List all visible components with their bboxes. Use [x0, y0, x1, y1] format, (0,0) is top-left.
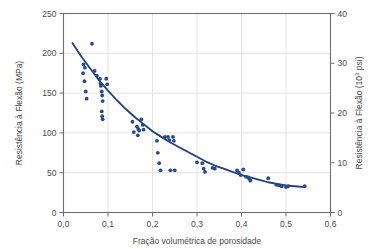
data-point-marker	[98, 77, 102, 81]
y-tick-label-left: 150	[42, 88, 56, 98]
y-axis-right-ticks: 010203040	[331, 9, 348, 218]
data-point-marker	[95, 74, 99, 78]
data-point-marker	[83, 79, 87, 83]
data-point-marker	[280, 184, 284, 188]
y-axis-title-left: Resistência à Flexão (MPa)	[14, 61, 24, 166]
data-point-marker	[101, 99, 105, 103]
data-point-marker	[173, 168, 177, 172]
data-point-marker	[241, 168, 245, 172]
data-point-marker	[83, 66, 87, 70]
chart-container: 0,00,10,20,30,40,50,6 050100150200250 01…	[0, 0, 378, 249]
data-point-marker	[156, 151, 160, 155]
data-point-marker	[104, 77, 108, 81]
data-point-marker	[157, 161, 161, 165]
y-tick-label-right: 10	[338, 158, 348, 168]
data-point-marker	[139, 117, 143, 121]
data-point-marker	[168, 168, 172, 172]
data-point-marker	[213, 167, 217, 171]
grid-lines	[64, 14, 331, 213]
data-points	[81, 42, 306, 189]
data-point-marker	[159, 168, 163, 172]
x-tick-label: 0,2	[147, 219, 159, 229]
axis-titles: Fração volumétrica de porosidadeResistên…	[14, 56, 364, 245]
y-tick-label-right: 0	[338, 208, 343, 218]
data-point-marker	[100, 114, 104, 118]
data-point-marker	[81, 71, 85, 75]
y-tick-label-right: 40	[338, 9, 348, 19]
data-point-marker	[90, 42, 94, 46]
y-tick-label-left: 0	[52, 208, 57, 218]
data-point-marker	[99, 84, 103, 88]
x-axis-ticks: 0,00,10,20,30,40,50,6	[58, 213, 337, 229]
data-point-marker	[136, 133, 140, 137]
data-point-marker	[137, 129, 141, 133]
data-point-marker	[100, 110, 104, 114]
data-point-marker	[200, 161, 204, 165]
x-tick-label: 0,1	[102, 219, 114, 229]
y-tick-label-left: 100	[42, 128, 56, 138]
data-point-marker	[303, 184, 307, 188]
trend-line	[72, 43, 304, 187]
data-point-marker	[101, 117, 105, 121]
x-tick-label: 0,3	[191, 219, 203, 229]
data-point-marker	[239, 173, 243, 177]
data-point-marker	[286, 184, 290, 188]
data-point-marker	[93, 69, 97, 73]
y-axis-title-right: Resistência à Flexão (103 psi)	[354, 56, 364, 169]
y-axis-left-ticks: 050100150200250	[42, 9, 63, 218]
fit-curve	[72, 43, 304, 187]
data-point-marker	[142, 128, 146, 132]
data-point-marker	[141, 123, 145, 127]
data-point-marker	[249, 179, 253, 183]
data-point-marker	[100, 94, 104, 98]
y-tick-label-right: 20	[338, 108, 348, 118]
data-point-marker	[172, 139, 176, 143]
y-tick-label-left: 50	[47, 168, 57, 178]
x-tick-label: 0,6	[325, 219, 337, 229]
data-point-marker	[132, 130, 136, 134]
x-axis-title: Fração volumétrica de porosidade	[133, 236, 262, 246]
data-point-marker	[131, 120, 135, 124]
data-point-marker	[85, 97, 89, 101]
y-tick-label-right: 30	[338, 58, 348, 68]
x-tick-label: 0,5	[280, 219, 292, 229]
x-tick-label: 0,0	[58, 219, 70, 229]
data-point-marker	[266, 176, 270, 180]
data-point-marker	[105, 82, 109, 86]
data-point-marker	[155, 139, 159, 143]
flexural-strength-scatter-chart: 0,00,10,20,30,40,50,6 050100150200250 01…	[0, 0, 378, 249]
y-tick-label-left: 250	[42, 9, 56, 19]
data-point-marker	[100, 90, 104, 94]
data-point-marker	[195, 160, 199, 164]
data-point-marker	[84, 90, 88, 94]
y-tick-label-left: 200	[42, 48, 56, 58]
data-point-marker	[171, 135, 175, 139]
data-point-marker	[168, 138, 172, 142]
x-tick-label: 0,4	[236, 219, 248, 229]
data-point-marker	[203, 170, 207, 174]
